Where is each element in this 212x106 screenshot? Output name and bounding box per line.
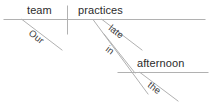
diagram-word-prep-object: afternoon bbox=[137, 58, 184, 69]
sentence-diagram: team practices Our late in afternoon the bbox=[0, 0, 212, 106]
diagram-word-subject: team bbox=[27, 5, 52, 16]
diagram-word-verb: practices bbox=[78, 5, 123, 16]
